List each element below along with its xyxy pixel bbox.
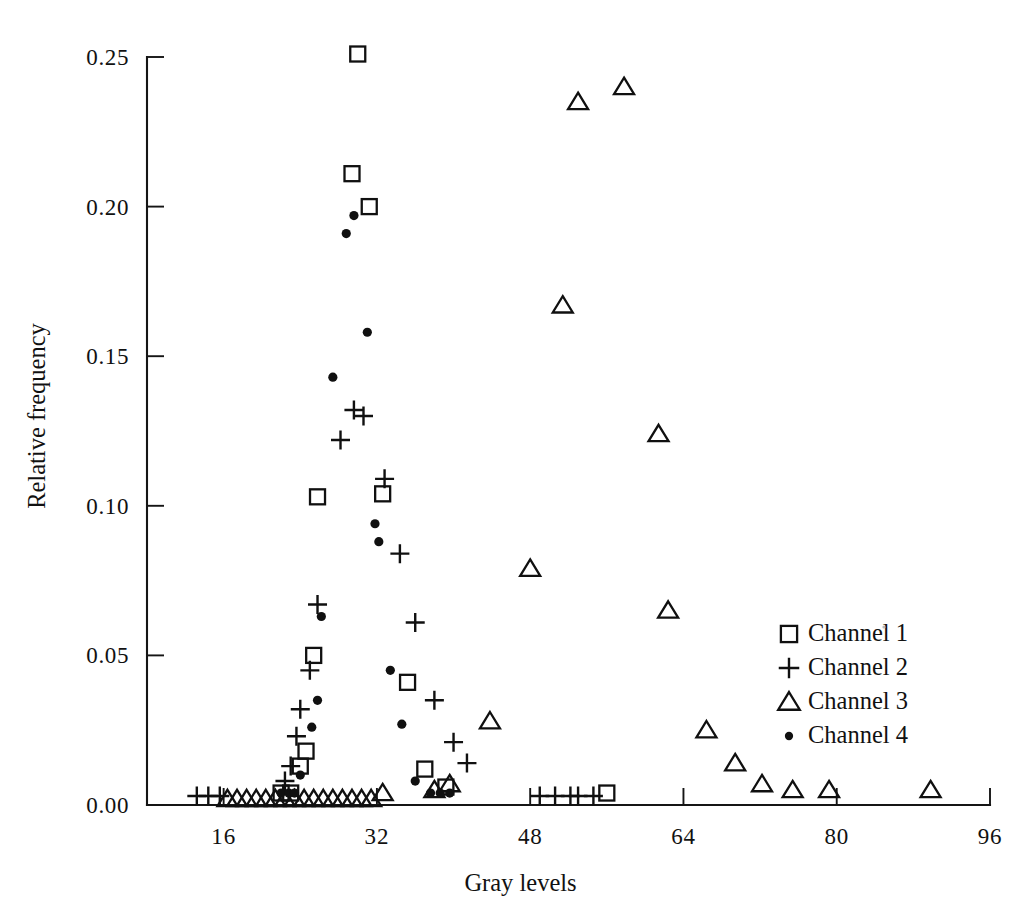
plus-marker [406, 613, 425, 632]
square-marker [375, 486, 390, 501]
legend-label: Channel 2 [808, 653, 908, 680]
y-axis-title: Relative frequency [23, 322, 50, 508]
dot-marker [397, 720, 406, 729]
square-marker [400, 675, 415, 690]
plus-marker [457, 754, 476, 773]
x-tick-label: 48 [518, 824, 543, 849]
dot-marker [296, 770, 305, 779]
square-marker [345, 166, 360, 181]
dot-marker [374, 537, 383, 546]
square-marker [299, 744, 314, 759]
triangle-marker [553, 296, 573, 312]
x-tick-label: 16 [211, 824, 236, 849]
triangle-marker [783, 781, 803, 797]
legend-label: Channel 1 [808, 619, 908, 646]
plus-marker [425, 691, 444, 710]
triangle-marker [480, 712, 500, 728]
dot-marker [349, 211, 358, 220]
triangle-marker [649, 425, 669, 441]
triangle-marker [614, 78, 634, 94]
triangle-marker [568, 93, 588, 109]
triangle-marker [658, 601, 678, 617]
triangle-marker [725, 754, 745, 770]
square-marker [417, 762, 432, 777]
y-tick-label: 0.05 [86, 643, 129, 668]
dot-marker [370, 519, 379, 528]
dot-marker [307, 723, 316, 732]
plus-marker [444, 733, 463, 752]
plus-marker [308, 595, 327, 614]
dot-marker [411, 776, 420, 785]
series-channel-2 [187, 401, 603, 806]
triangle-marker [696, 721, 716, 737]
series-channel-1 [274, 47, 615, 801]
dot-marker [363, 328, 372, 337]
plus-marker [291, 700, 310, 719]
square-marker [350, 47, 365, 62]
x-tick-label: 96 [978, 824, 1003, 849]
square-marker [362, 199, 377, 214]
x-axis-title: Gray levels [464, 869, 576, 896]
legend: Channel 1Channel 2Channel 3Channel 4 [778, 619, 908, 748]
dot-marker [426, 788, 435, 797]
dot-marker [785, 732, 793, 740]
square-marker [781, 626, 797, 642]
dot-marker [445, 788, 454, 797]
triangle-marker [921, 781, 941, 797]
dot-marker [386, 666, 395, 675]
plus-marker [390, 544, 409, 563]
dot-marker [328, 373, 337, 382]
y-tick-label: 0.00 [86, 793, 129, 818]
y-tick-label: 0.20 [86, 195, 129, 220]
triangle-marker [778, 692, 800, 710]
plus-marker [331, 430, 350, 449]
paper-speck [882, 625, 885, 628]
dot-marker [436, 788, 445, 797]
dot-marker [290, 788, 299, 797]
x-tick-label: 64 [671, 824, 696, 849]
triangle-marker [520, 559, 540, 575]
plus-marker [779, 658, 800, 679]
dot-marker [313, 696, 322, 705]
square-marker [306, 648, 321, 663]
legend-label: Channel 4 [808, 721, 908, 748]
scatter-plot: 0.000.050.100.150.200.25163248648096 Cha… [0, 0, 1030, 910]
square-marker [310, 489, 325, 504]
y-tick-label: 0.25 [86, 45, 129, 70]
chart-figure: 0.000.050.100.150.200.25163248648096 Cha… [0, 0, 1030, 910]
x-tick-label: 80 [824, 824, 849, 849]
dot-marker [342, 229, 351, 238]
square-marker [599, 786, 614, 801]
y-tick-label: 0.10 [86, 494, 129, 519]
legend-label: Channel 3 [808, 687, 908, 714]
triangle-marker [752, 775, 772, 791]
x-tick-label: 32 [365, 824, 390, 849]
dot-marker [317, 612, 326, 621]
y-tick-label: 0.15 [86, 344, 129, 369]
